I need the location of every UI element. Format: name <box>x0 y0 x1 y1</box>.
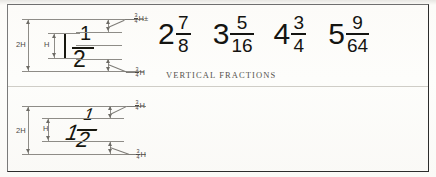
dimension-label-h: H <box>43 124 49 133</box>
whole-number: 2 <box>158 20 175 49</box>
arrow-up-lower-gap <box>108 142 112 146</box>
sample-fraction-vertical: 1 2 <box>70 19 110 73</box>
fraction: 9 64 <box>346 13 369 55</box>
upper-gap-suffix: H± <box>139 14 149 23</box>
gap-line-upper <box>76 32 122 33</box>
lower-gap-denominator: 4 <box>135 73 139 78</box>
sample-fraction-inclined: 1 1 2 <box>66 104 110 156</box>
arrow-down-h <box>46 136 50 140</box>
gap-line-upper <box>74 118 124 119</box>
whole-number: 3 <box>213 20 230 49</box>
dimension-label-upper-gap: 3 4 H <box>135 100 145 112</box>
whole-number: 4 <box>274 20 291 49</box>
numerator: 3 <box>292 13 305 33</box>
dimension-line-2h <box>28 19 29 71</box>
dimension-label-2h: 2H <box>16 40 26 49</box>
dimension-line-2h <box>28 106 29 154</box>
lower-gap-denominator: 4 <box>136 155 140 160</box>
dimension-label-upper-gap: 3 4 H± <box>134 13 148 25</box>
gap-line-middle <box>76 45 122 46</box>
reference-bar <box>64 34 66 58</box>
section-inclined-fractions: 2H H 1 1 2 <box>0 88 436 177</box>
upper-gap-fraction: 3 4 <box>134 13 138 25</box>
example-fraction: 2 7 8 <box>158 13 191 55</box>
arrow-up-h <box>52 34 56 38</box>
leader-upper <box>110 106 127 115</box>
dimension-label-lower-gap: 3 4 H <box>135 67 145 79</box>
sample-denominator: 2 <box>75 129 91 151</box>
upper-gap-denominator: 4 <box>134 19 138 24</box>
lower-gap-fraction: 3 4 <box>136 149 140 161</box>
example-fraction: 3 5 16 <box>213 13 254 55</box>
section-vertical-fractions: 2H H 1 2 <box>0 0 436 88</box>
fraction: 7 8 <box>176 13 191 55</box>
arrow-down-2h <box>26 149 30 153</box>
construction-diagram-inclined: 2H H 1 1 2 <box>14 96 154 168</box>
fraction: 3 4 <box>291 13 306 55</box>
caption-vertical-fractions: VERTICAL FRACTIONS <box>166 70 276 80</box>
sample-numerator: 1 <box>80 23 91 43</box>
gap-line-lower <box>74 141 124 142</box>
arrow-down-h <box>52 53 56 57</box>
example-fraction: 4 3 4 <box>274 13 307 55</box>
leader-upper <box>108 20 125 28</box>
arrow-down-lower-gap <box>106 67 110 71</box>
examples-vertical: 2 7 8 3 5 16 4 3 4 <box>158 13 369 55</box>
denominator: 16 <box>230 35 253 55</box>
arrow-up-2h <box>26 20 30 24</box>
numerator: 7 <box>177 13 190 33</box>
sample-numerator: 1 <box>83 106 95 123</box>
arrow-up-lower-gap <box>106 59 110 63</box>
section-divider <box>8 86 428 87</box>
denominator: 8 <box>177 35 190 55</box>
example-fraction: 5 9 64 <box>328 13 369 55</box>
lower-gap-fraction: 3 4 <box>135 67 139 79</box>
denominator: 4 <box>292 35 305 55</box>
lower-gap-suffix: H <box>140 68 145 77</box>
arrow-up-h <box>46 119 50 123</box>
arrow-down-2h <box>26 66 30 70</box>
numerator: 9 <box>351 13 364 33</box>
arrow-up-upper-gap <box>106 20 110 24</box>
upper-gap-fraction: 3 4 <box>135 100 139 112</box>
dimension-label-2h: 2H <box>16 126 26 135</box>
denominator: 64 <box>346 35 369 55</box>
upper-gap-denominator: 4 <box>135 106 139 111</box>
numerator: 5 <box>236 13 249 33</box>
dimension-label-lower-gap: 3 4 H <box>136 149 146 161</box>
dimension-label-h: H <box>44 40 50 49</box>
construction-diagram-vertical: 2H H 1 2 <box>14 7 154 79</box>
gap-line-lower <box>76 59 122 60</box>
whole-number: 5 <box>328 20 345 49</box>
lower-gap-suffix: H <box>141 150 146 159</box>
arrow-up-2h <box>26 107 30 111</box>
figure-page: 2H H 1 2 <box>0 0 436 177</box>
upper-gap-suffix: H <box>140 101 145 110</box>
arrow-up-upper-gap <box>108 106 112 110</box>
arrow-down-lower-gap <box>108 149 112 153</box>
fraction: 5 16 <box>230 13 253 55</box>
